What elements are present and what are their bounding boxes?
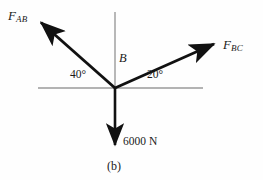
free-body-diagram-figure: FAB FBC B 40° 20° 6000 N (b) bbox=[0, 0, 263, 180]
force-label-fab: FAB bbox=[8, 9, 27, 24]
angle-label-40: 40° bbox=[70, 69, 86, 81]
figure-caption: (b) bbox=[107, 160, 121, 172]
vector-diagram-canvas bbox=[0, 0, 263, 180]
force-label-fbc-subscript: BC bbox=[231, 43, 243, 53]
force-label-fbc-main: F bbox=[223, 37, 231, 52]
force-vector-fbc bbox=[115, 44, 214, 88]
point-label-b: B bbox=[119, 52, 127, 65]
angle-label-20: 20° bbox=[147, 69, 163, 81]
load-magnitude-label: 6000 N bbox=[123, 136, 157, 148]
force-label-fab-main: F bbox=[8, 8, 16, 23]
force-label-fab-subscript: AB bbox=[16, 14, 27, 24]
force-label-fbc: FBC bbox=[223, 38, 243, 53]
